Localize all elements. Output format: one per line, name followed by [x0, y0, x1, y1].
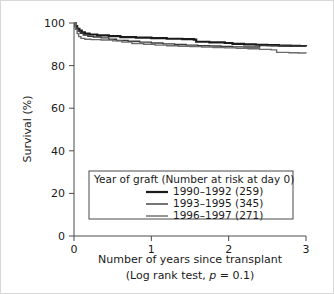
survival-curves [74, 23, 306, 53]
caption-suffix: = 0.1) [216, 269, 254, 282]
y-tick-labels: 020406080100 [44, 17, 65, 243]
legend-entry-label-3: 1996–1997 (271) [173, 209, 263, 221]
y-axis-title: Survival (%) [21, 96, 34, 163]
y-tick-label: 20 [51, 187, 65, 200]
legend-title: Year of graft (Number at risk at day 0) [93, 173, 294, 185]
survival-chart: 0123 020406080100 Survival (%) Number of… [1, 1, 334, 294]
y-tick-label: 40 [51, 145, 65, 158]
caption-p-symbol: p [208, 269, 216, 282]
y-tick-label: 60 [51, 102, 65, 115]
y-tick-label: 100 [44, 17, 65, 30]
legend-entry-label-1: 1990–1992 (259) [173, 185, 263, 197]
x-tick-label: 3 [303, 243, 310, 256]
x-tick-label: 0 [71, 243, 78, 256]
x-axis-title: Number of years since transplant [98, 253, 283, 266]
legend: Year of graft (Number at risk at day 0) … [89, 171, 294, 221]
y-tick-label: 0 [58, 230, 65, 243]
y-tick-label: 80 [51, 60, 65, 73]
figure-container: 0123 020406080100 Survival (%) Number of… [0, 0, 334, 294]
survival-curve-1 [74, 23, 306, 46]
caption-prefix: (Log rank test, [126, 269, 210, 282]
x-axis-caption: (Log rank test, p = 0.1) [126, 269, 255, 282]
legend-entry-label-2: 1993–1995 (345) [173, 197, 263, 209]
